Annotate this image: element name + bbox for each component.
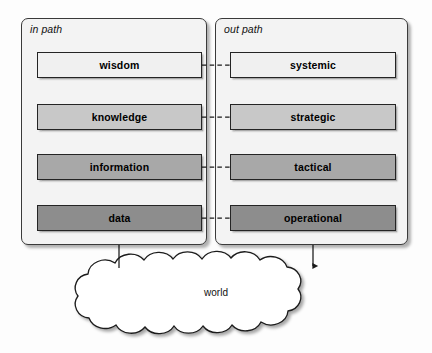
stage-information[interactable]: information	[37, 154, 202, 180]
panel-out-path-label: out path	[224, 23, 263, 35]
stage-strategic[interactable]: strategic	[230, 104, 396, 130]
stage-knowledge[interactable]: knowledge	[37, 104, 202, 130]
stage-data[interactable]: data	[37, 205, 202, 231]
stage-tactical[interactable]: tactical	[230, 154, 396, 180]
world-cloud-label: world	[0, 287, 432, 298]
stage-operational[interactable]: operational	[230, 205, 396, 231]
stage-systemic[interactable]: systemic	[230, 52, 396, 78]
panel-in-path-label: in path	[30, 23, 62, 35]
stage-wisdom[interactable]: wisdom	[37, 52, 202, 78]
diagram-canvas: in path out path wisdom knowledge inform…	[0, 0, 432, 353]
